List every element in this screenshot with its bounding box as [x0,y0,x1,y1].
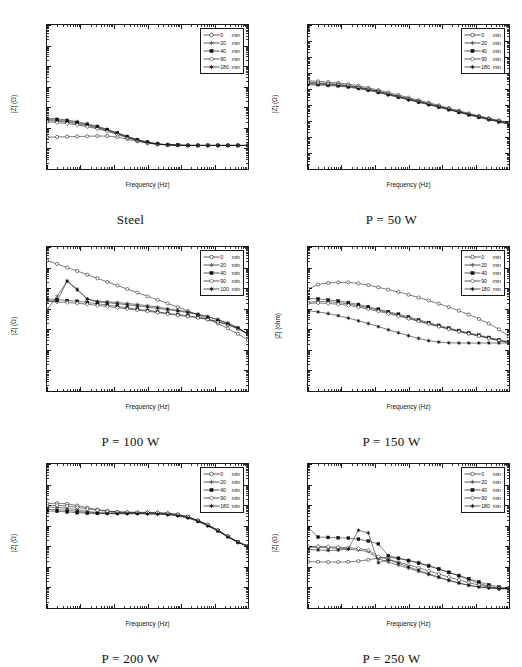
x-tick-mark [509,165,510,169]
x-tick-mark [248,165,249,169]
legend-entry: 40 min [203,47,240,55]
legend-entry-label: 180 min [481,63,501,71]
legend-entry: 90 min [464,494,501,502]
plot-legend: 0 min20 min40 min90 min100 min [200,250,244,296]
y-tick-mark [308,169,312,170]
legend-marker-filled-square [464,47,481,55]
panel-plot-area: 10110210310410510610710810-1100101102103… [261,228,522,424]
series-40-min [308,526,509,590]
legend-marker-open-diamond [464,55,481,63]
legend-entry-label: 100 min [220,285,240,293]
x-axis-label: Frequency (Hz) [46,181,249,188]
legend-marker-filled-square [203,486,220,494]
y-tick-mark [505,608,509,609]
legend-entry-label: 180 min [481,285,501,293]
legend-entry: 180 min [203,502,240,510]
legend-entry-label: 0 min [220,470,240,478]
legend-marker-open-circle [464,470,481,478]
legend-entry: 90 min [464,55,501,63]
panel-plot-area: 10110210310410510610710810-1100101102103… [0,228,261,424]
y-tick-mark [47,169,51,170]
legend-entry-label: 90 min [481,55,501,63]
legend-entry-label: 20 min [481,478,501,486]
legend-entry: 20 min [464,39,501,47]
x-tick-mark [509,387,510,391]
legend-marker-filled-star [203,502,220,510]
legend-entry: 180 min [464,502,501,510]
legend-marker-filled-star [203,63,220,71]
legend-entry: 180 min [203,63,240,71]
legend-entry: 20 min [203,478,240,486]
impedance-figure: 10-110010110210310410510610-110010110210… [0,0,522,667]
plot-panel-3: 10110210310410510610710810-1100101102103… [0,228,261,450]
plot-panel-1: 10-110010110210310410510610-110010110210… [0,6,261,228]
legend-entry-label: 40 min [481,47,501,55]
legend-entry: 0 min [203,253,240,261]
legend-entry-label: 20 min [220,261,240,269]
legend-entry-label: 90 min [220,494,240,502]
plot-legend: 0 min20 min40 min90 min180 min [461,250,505,296]
legend-marker-filled-square [464,269,481,277]
legend-marker-asterisk [203,478,220,486]
legend-entry-label: 90 min [220,55,240,63]
legend-marker-open-circle [203,31,220,39]
legend-entry: 40 min [464,47,501,55]
y-tick-mark [244,608,248,609]
panel-caption: Steel [0,212,261,228]
legend-entry-label: 20 min [220,478,240,486]
legend-entry-label: 0 min [220,31,240,39]
legend-entry-label: 20 min [220,39,240,47]
panel-plot-area: 10-110010110210310410510610-110010110210… [0,6,261,202]
y-axis-label: |Z| (Ω) [271,95,278,113]
legend-marker-filled-star [203,285,220,293]
series-90-min [308,301,509,344]
x-axis-label: Frequency (Hz) [46,620,249,627]
plot-legend: 0 min20 min40 min90 min180 min [200,28,244,74]
x-tick-mark [248,387,249,391]
legend-entry: 20 min [203,39,240,47]
series-180-min [308,83,509,126]
panel-plot-area: 10110210310410510610710810-1100101102103… [0,445,261,641]
y-tick-mark [308,391,312,392]
legend-entry: 40 min [203,269,240,277]
legend-entry-label: 0 min [481,31,501,39]
legend-marker-open-circle [464,253,481,261]
x-tick-mark [248,247,249,251]
panel-caption: P = 200 W [0,651,261,667]
legend-entry: 20 min [464,478,501,486]
legend-marker-filled-star [464,63,481,71]
x-tick-mark [248,464,249,468]
legend-entry: 180 min [464,285,501,293]
legend-entry-label: 0 min [481,470,501,478]
x-axis-label: Frequency (Hz) [307,620,510,627]
legend-entry: 40 min [203,486,240,494]
axes-frame: 10110210310410510610710810-1100101102103… [46,246,249,392]
legend-marker-open-diamond [203,55,220,63]
plot-panel-4: 10110210310410510610710810-1100101102103… [261,228,522,450]
y-tick-mark [505,169,509,170]
y-tick-mark [505,391,509,392]
legend-marker-filled-star [464,502,481,510]
legend-entry: 20 min [203,261,240,269]
y-tick-mark [308,608,312,609]
x-tick-mark [509,247,510,251]
axes-frame: 10110210310410510610710810-1100101102103… [307,463,510,609]
legend-entry: 0 min [203,31,240,39]
legend-marker-filled-square [464,486,481,494]
legend-entry-label: 0 min [220,253,240,261]
y-tick-mark [244,391,248,392]
y-axis-label: |Z| (Ω) [10,317,17,335]
legend-entry: 90 min [464,277,501,285]
legend-entry-label: 180 min [481,502,501,510]
axes-frame: 10-110010110210310410510610-110010110210… [46,24,249,170]
legend-entry: 40 min [464,269,501,277]
y-axis-label: |Z| (Ω) [10,534,17,552]
legend-entry-label: 0 min [481,253,501,261]
legend-entry: 0 min [203,470,240,478]
axes-frame: 10110210310410510610710810-1100101102103… [46,463,249,609]
y-tick-mark [47,608,51,609]
legend-marker-asterisk [464,39,481,47]
legend-entry: 0 min [464,253,501,261]
plot-panel-6: 10110210310410510610710810-1100101102103… [261,445,522,667]
y-axis-label: |Z| (Ω) [271,534,278,552]
